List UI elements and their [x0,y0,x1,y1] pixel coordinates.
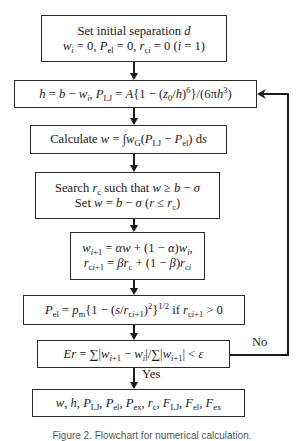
step-calc-w-line1: Calculate w = ∫wG(PLJ − Pel) ds [50,132,207,147]
step-convergence: Er = ∑|wi+1 − wi|/∑|wi+1| < ε [37,340,230,368]
arrowhead-4 [130,225,138,232]
step-convergence-line1: Er = ∑|wi+1 − wi|/∑|wi+1| < ε [64,347,204,362]
step-update: wi+1 = αw + (1 − α)wi, rci+1 = βrc + (1 … [70,232,205,280]
arrow-5 [133,280,135,288]
step-init: Set initial separation d wi = 0, Pel = 0… [41,15,227,62]
step-search-rc-line2: Set w = b − σ (r ≤ rc) [75,196,180,211]
step-update-line2: rci+1 = βrc + (1 − β)rci [84,256,191,271]
arrowhead-6 [130,333,138,340]
step-output-line1: w, h, PLJ, Pel, Pex, rc, FLJ, Fel, Fex [56,396,221,411]
step-output: w, h, PLJ, Pel, Pex, rc, FLJ, Fel, Fex [32,389,245,417]
step-calc-w: Calculate w = ∫wG(PLJ − Pel) ds [30,125,227,154]
step-lj-pressure-line1: h = b − wi, PLJ = A{1 − (z0/h)6}/(6πh3) [39,87,231,102]
step-update-line1: wi+1 = αw + (1 − α)wi, [82,241,192,256]
step-search-rc: Search rc such that w ≥ b − σ Set w = b … [35,172,220,219]
step-p-el: Pel = pm{1 − (s/rci+1)2}1/2 if rci+1 > 0 [23,295,245,325]
arrowhead-5 [130,288,138,295]
arrowhead-3 [130,165,138,172]
arrow-1 [133,62,135,73]
arrowhead-1 [130,73,138,80]
figure-caption: Figure 2. Flowchart for numerical calcul… [0,430,304,441]
arrow-7 [133,368,135,382]
arrow-6 [133,325,135,333]
arrow-2 [133,108,135,118]
arrow-3 [133,154,135,165]
yes-label: Yes [142,367,160,382]
step-search-rc-line1: Search rc such that w ≥ b − σ [55,181,200,196]
arrowhead-2 [130,118,138,125]
step-lj-pressure: h = b − wi, PLJ = A{1 − (z0/h)6}/(6πh3) [14,80,257,108]
step-p-el-line1: Pel = pm{1 − (s/rci+1)2}1/2 if rci+1 > 0 [45,303,223,318]
no-label: No [252,335,267,350]
step-init-line1: Set initial separation d [78,24,191,39]
step-init-line2: wi = 0, Pel = 0, rci = 0 (i = 1) [63,39,205,54]
arrowhead-7 [130,382,138,389]
